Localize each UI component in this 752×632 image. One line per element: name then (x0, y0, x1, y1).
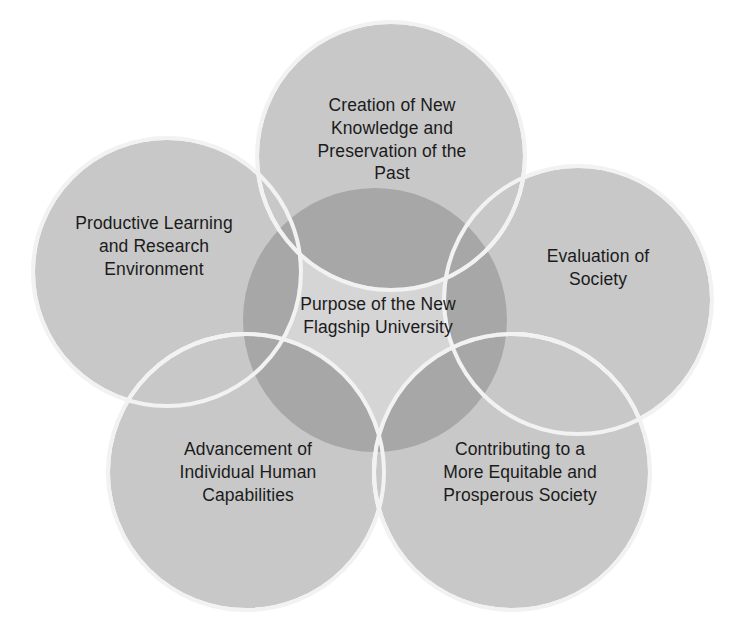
venn-diagram: Creation of New Knowledge and Preservati… (0, 0, 752, 632)
venn-shapes (0, 0, 752, 632)
